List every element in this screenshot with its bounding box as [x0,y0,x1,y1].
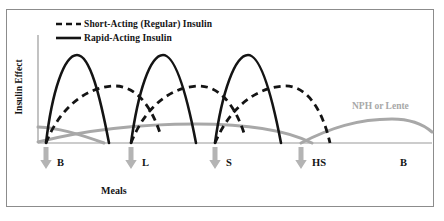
legend-label-rapid-acting: Rapid-Acting Insulin [84,33,172,43]
series-rapid-acting-insulin [46,55,281,143]
x-tick-label-lunch: L [142,157,149,168]
x-tick-label-next-breakfast: B [400,157,407,168]
short-peak-2 [131,86,244,143]
nph-curve-night [301,119,432,143]
x-tick-label-supper: S [226,157,232,168]
y-axis-title: Insulin Effect [14,52,24,122]
nph-curve-day [38,124,312,143]
x-tick-label-bedtime: HS [312,157,326,168]
series-nph-or-lente [38,119,432,143]
short-peak-3 [215,86,330,143]
nph-or-lente-annotation: NPH or Lente [352,101,409,111]
meal-arrow-breakfast [40,147,51,169]
meal-arrow-bedtime [295,147,306,169]
meal-arrow-markers [40,147,306,169]
legend-label-short-acting: Short-Acting (Regular) Insulin [84,19,212,29]
x-axis-title: Meals [101,185,127,196]
meal-arrow-lunch [125,147,136,169]
x-tick-label-breakfast: B [57,157,64,168]
meal-arrow-supper [209,147,220,169]
